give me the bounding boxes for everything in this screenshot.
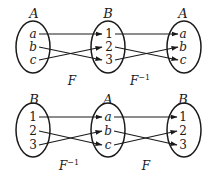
element-2: 2: [29, 124, 37, 138]
element-3: 3: [179, 138, 187, 152]
set-label: A: [28, 6, 38, 21]
bottom-set-b-left: B 1 2 3: [16, 92, 50, 157]
element-2: 2: [105, 40, 113, 54]
function-inverse-diagram: A a b c B 1 2 3 A a b c: [0, 0, 214, 177]
set-label: A: [177, 6, 187, 21]
map-label-f-inverse: F−1: [58, 158, 79, 173]
element-c: c: [30, 53, 37, 67]
bottom-set-b-right: B 1 2 3: [167, 92, 201, 157]
element-1: 1: [29, 110, 37, 124]
set-label: A: [102, 92, 112, 107]
element-c: c: [180, 53, 187, 67]
element-b: b: [29, 40, 37, 54]
element-1: 1: [105, 27, 113, 41]
top-set-b-middle: B 1 2 3: [91, 6, 125, 73]
element-a: a: [104, 110, 111, 124]
map-label-f: F: [67, 74, 77, 88]
bottom-row: B 1 2 3 A a b c B 1 2 3: [16, 92, 201, 173]
element-1: 1: [179, 110, 187, 124]
element-a: a: [29, 27, 36, 41]
map-label-f: F: [141, 159, 151, 173]
element-a: a: [179, 27, 186, 41]
element-3: 3: [29, 138, 37, 152]
top-set-a-left: A a b c: [16, 6, 50, 73]
element-2: 2: [179, 124, 187, 138]
element-b: b: [179, 40, 187, 54]
element-b: b: [104, 124, 112, 138]
set-label: B: [28, 92, 39, 107]
element-3: 3: [105, 53, 113, 67]
set-label: B: [102, 6, 113, 21]
element-c: c: [105, 138, 112, 152]
top-set-a-right: A a b c: [167, 6, 201, 73]
bottom-set-a-middle: A a b c: [91, 92, 125, 157]
map-label-f-inverse: F−1: [129, 73, 150, 88]
top-row: A a b c B 1 2 3 A a b c: [16, 6, 201, 88]
